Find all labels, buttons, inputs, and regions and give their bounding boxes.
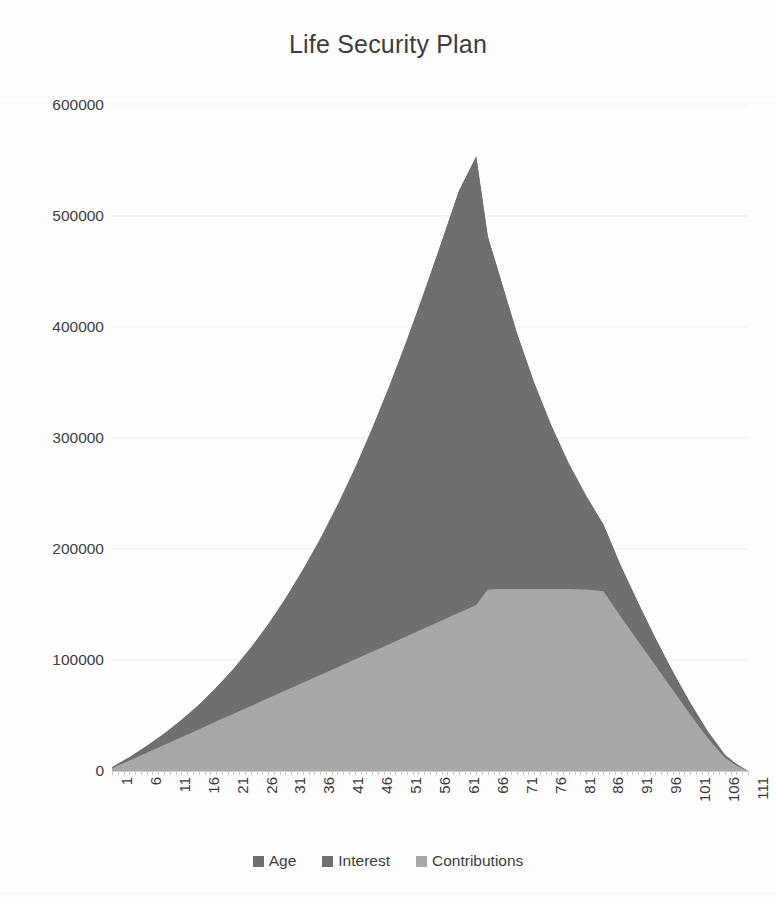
x-tick-label-101: 101 bbox=[696, 777, 713, 802]
x-tick-label-6: 6 bbox=[147, 777, 164, 785]
x-tick-label-1: 1 bbox=[118, 777, 135, 785]
chart-legend: AgeInterestContributions bbox=[0, 852, 776, 870]
legend-item-interest[interactable]: Interest bbox=[322, 852, 390, 870]
legend-item-age[interactable]: Age bbox=[253, 852, 297, 870]
legend-swatch-icon-interest bbox=[322, 856, 333, 867]
legend-label-interest: Interest bbox=[338, 852, 390, 870]
scan-artifact bbox=[0, 96, 776, 97]
x-tick-label-106: 106 bbox=[725, 777, 742, 802]
x-tick-label-11: 11 bbox=[176, 777, 193, 793]
x-tick-label-46: 46 bbox=[378, 777, 395, 794]
legend-swatch-icon-contributions bbox=[416, 856, 427, 867]
x-tick-label-91: 91 bbox=[638, 777, 655, 794]
x-tick-label-16: 16 bbox=[205, 777, 222, 794]
y-tick-label-200000: 200000 bbox=[52, 540, 104, 558]
x-tick-mark bbox=[748, 771, 749, 775]
x-tick-label-31: 31 bbox=[291, 777, 308, 794]
area-chart-svg bbox=[112, 105, 748, 771]
y-tick-label-600000: 600000 bbox=[52, 96, 104, 114]
x-tick-label-41: 41 bbox=[349, 777, 366, 794]
y-tick-label-500000: 500000 bbox=[52, 207, 104, 225]
x-tick-label-21: 21 bbox=[234, 777, 251, 794]
x-tick-label-71: 71 bbox=[523, 777, 540, 794]
x-axis: 1611162126313641465156616671768186919610… bbox=[112, 775, 748, 837]
x-tick-label-61: 61 bbox=[465, 777, 482, 794]
x-tick-label-56: 56 bbox=[436, 777, 453, 794]
x-tick-label-96: 96 bbox=[667, 777, 684, 794]
x-tick-label-66: 66 bbox=[494, 777, 511, 794]
plot-area bbox=[112, 105, 748, 771]
legend-swatch-icon-age bbox=[253, 856, 264, 867]
y-tick-label-300000: 300000 bbox=[52, 429, 104, 447]
legend-label-contributions: Contributions bbox=[432, 852, 523, 870]
x-tick-label-111: 111 bbox=[754, 777, 771, 800]
legend-label-age: Age bbox=[269, 852, 297, 870]
chart-container: Life Security Plan 010000020000030000040… bbox=[0, 0, 776, 901]
x-axis-line bbox=[112, 771, 749, 772]
y-tick-label-100000: 100000 bbox=[52, 651, 104, 669]
x-tick-label-76: 76 bbox=[552, 777, 569, 794]
series-areas bbox=[112, 157, 748, 771]
x-tick-label-36: 36 bbox=[320, 777, 337, 794]
x-tick-label-81: 81 bbox=[581, 777, 598, 794]
x-tick-label-86: 86 bbox=[609, 777, 626, 794]
y-axis: 0100000200000300000400000500000600000 bbox=[0, 105, 104, 771]
x-tick-label-51: 51 bbox=[407, 777, 424, 794]
x-tick-label-26: 26 bbox=[263, 777, 280, 794]
y-tick-label-400000: 400000 bbox=[52, 318, 104, 336]
legend-item-contributions[interactable]: Contributions bbox=[416, 852, 523, 870]
y-tick-label-0: 0 bbox=[95, 762, 104, 780]
chart-title: Life Security Plan bbox=[0, 30, 776, 59]
scan-artifact bbox=[0, 893, 776, 894]
